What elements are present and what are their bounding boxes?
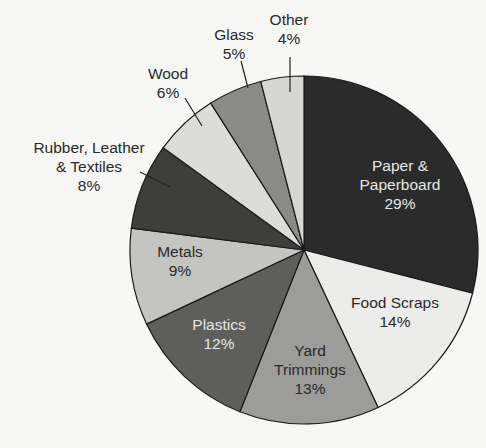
slice-label-rubber-leather-textiles: Rubber, Leather& Textiles8%	[33, 139, 144, 194]
pie-chart: Paper &Paperboard29%Food Scraps14%YardTr…	[0, 0, 486, 448]
slice-label-other: Other4%	[270, 11, 309, 47]
leader-line	[241, 61, 248, 88]
slice-label-glass: Glass5%	[214, 26, 254, 62]
slice-label-wood: Wood6%	[148, 65, 188, 101]
